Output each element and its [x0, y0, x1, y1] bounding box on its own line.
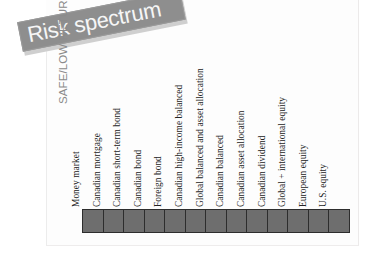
spectrum-label: Canadian bond — [133, 150, 144, 207]
spectrum-label: Global balanced and asset allocation — [195, 68, 206, 207]
spectrum-cell — [104, 210, 125, 232]
spectrum-label: Canadian asset allocation — [236, 110, 247, 207]
axis-caption-safe-low-return: SAFE/LOW RETURN — [55, 0, 71, 104]
risk-spectrum: Money marketCanadian mortgageCanadian sh… — [82, 70, 350, 234]
spectrum-cell — [247, 210, 268, 232]
spectrum-label: Money market — [71, 151, 82, 207]
spectrum-cell — [227, 210, 248, 232]
spectrum-labels: Money marketCanadian mortgageCanadian sh… — [82, 70, 350, 207]
spectrum-label: U.S. equity — [318, 164, 329, 207]
spectrum-label: Foreign bond — [153, 156, 164, 207]
spectrum-cell — [124, 210, 145, 232]
spectrum-label: Canadian balanced — [215, 135, 226, 207]
spectrum-label: Canadian mortgage — [92, 133, 103, 207]
spectrum-cell — [165, 210, 186, 232]
spectrum-label: European equity — [298, 145, 309, 207]
spectrum-cell — [329, 210, 349, 232]
spectrum-cell — [206, 210, 227, 232]
spectrum-cell — [186, 210, 207, 232]
spectrum-cell — [288, 210, 309, 232]
page-card-left-edge — [46, 40, 47, 246]
risk-spectrum-figure: Risk spectrum SAFE/LOW RETURN Money mark… — [0, 0, 371, 258]
spectrum-label: Canadian dividend — [257, 136, 268, 207]
spectrum-label: Global + international equity — [277, 97, 288, 207]
spectrum-label: Canadian high-income balanced — [174, 85, 185, 207]
spectrum-label-slot: U.S. equity — [329, 70, 350, 207]
spectrum-cell — [309, 210, 330, 232]
spectrum-cell — [83, 210, 104, 232]
title-banner: Risk spectrum — [16, 8, 192, 64]
spectrum-cell — [268, 210, 289, 232]
spectrum-label: Canadian short-term bond — [112, 108, 123, 207]
spectrum-cells — [82, 209, 350, 233]
spectrum-cell — [145, 210, 166, 232]
